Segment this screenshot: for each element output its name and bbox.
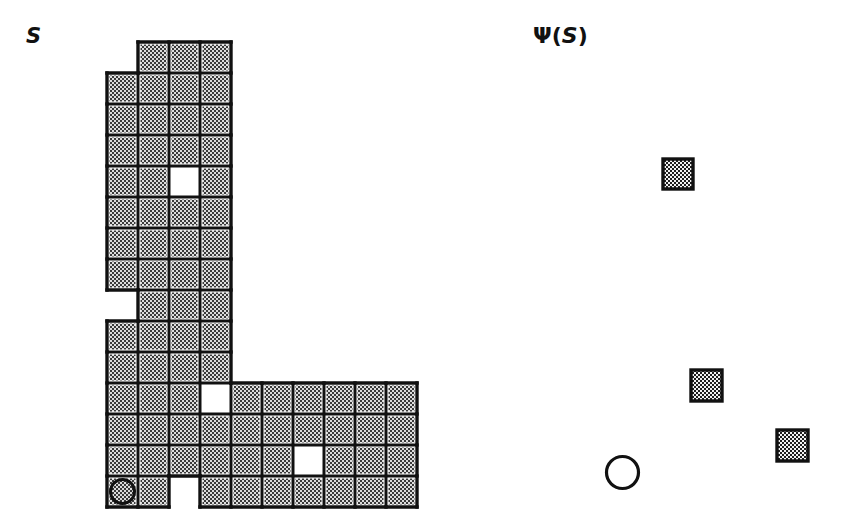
cell-fill xyxy=(265,386,291,412)
cell-fill xyxy=(358,448,384,474)
cell-fill xyxy=(141,448,167,474)
cell-fill xyxy=(203,448,229,474)
cell-fill xyxy=(172,107,198,133)
cell-fill xyxy=(327,448,353,474)
psi-square-marker xyxy=(691,370,722,401)
cell-fill xyxy=(358,386,384,412)
cell-hole xyxy=(296,448,322,474)
cell-fill xyxy=(172,293,198,319)
cell-fill xyxy=(110,231,136,257)
cell-fill xyxy=(389,386,415,412)
cell-fill xyxy=(172,231,198,257)
psi-argument: S xyxy=(562,23,578,48)
cell-fill xyxy=(203,107,229,133)
psi-glyph: Ψ xyxy=(533,23,552,48)
cell-fill xyxy=(141,386,167,412)
cell-fill xyxy=(203,417,229,443)
cell-fill xyxy=(358,417,384,443)
cell-fill xyxy=(110,200,136,226)
cell-fill xyxy=(203,45,229,71)
cell-fill xyxy=(358,479,384,505)
psi-circle-marker xyxy=(607,457,639,489)
cell-fill xyxy=(141,324,167,350)
cell-fill xyxy=(203,324,229,350)
cell-fill xyxy=(234,417,260,443)
cell-fill xyxy=(296,386,322,412)
cell-fill xyxy=(172,200,198,226)
cell-fill xyxy=(110,107,136,133)
cell-fill xyxy=(141,417,167,443)
cell-fill xyxy=(203,479,229,505)
cell-fill xyxy=(141,76,167,102)
cell-fill xyxy=(141,262,167,288)
paren-open: ( xyxy=(552,23,562,48)
cell-fill xyxy=(172,138,198,164)
cell-fill xyxy=(172,386,198,412)
cell-fill xyxy=(172,324,198,350)
cell-hole xyxy=(172,169,198,195)
cell-fill xyxy=(203,231,229,257)
cell-fill xyxy=(110,386,136,412)
cell-fill xyxy=(265,448,291,474)
cell-fill xyxy=(141,355,167,381)
figure-canvas: S Ψ(S) xyxy=(0,0,847,511)
cell-fill xyxy=(110,324,136,350)
psi-square-marker xyxy=(663,159,693,189)
cell-fill xyxy=(141,200,167,226)
cell-fill xyxy=(110,417,136,443)
cell-fill xyxy=(141,479,167,505)
polyomino-s-group xyxy=(107,42,417,507)
cell-hole xyxy=(203,386,229,412)
psi-square-marker xyxy=(777,430,808,461)
cell-fill xyxy=(389,479,415,505)
cell-fill xyxy=(203,355,229,381)
cell-fill xyxy=(296,417,322,443)
cell-fill xyxy=(110,76,136,102)
cell-fill xyxy=(110,138,136,164)
cell-fill xyxy=(110,169,136,195)
cell-fill xyxy=(327,386,353,412)
cell-fill xyxy=(172,76,198,102)
cell-fill xyxy=(141,138,167,164)
cell-fill xyxy=(110,262,136,288)
cell-fill xyxy=(265,417,291,443)
cell-fill xyxy=(141,107,167,133)
panel-label-psi-of-s: Ψ(S) xyxy=(533,25,588,47)
cell-fill xyxy=(172,45,198,71)
diagram-svg xyxy=(0,0,847,511)
cell-fill xyxy=(389,448,415,474)
cell-fill xyxy=(234,386,260,412)
cell-fill xyxy=(327,417,353,443)
cell-fill xyxy=(203,200,229,226)
cell-fill xyxy=(172,448,198,474)
cell-fill xyxy=(327,479,353,505)
cell-fill xyxy=(141,293,167,319)
cell-fill xyxy=(141,45,167,71)
cell-fill xyxy=(203,76,229,102)
cell-fill xyxy=(172,355,198,381)
panel-label-s: S xyxy=(26,26,41,47)
cell-fill xyxy=(234,448,260,474)
cell-fill xyxy=(110,355,136,381)
cell-fill xyxy=(265,479,291,505)
cell-fill xyxy=(141,231,167,257)
cell-fill xyxy=(172,417,198,443)
cell-fill xyxy=(172,262,198,288)
cell-fill xyxy=(110,448,136,474)
cell-fill xyxy=(203,138,229,164)
cell-fill xyxy=(389,417,415,443)
paren-close: ) xyxy=(578,23,588,48)
cell-fill xyxy=(141,169,167,195)
cell-fill xyxy=(234,479,260,505)
cell-fill xyxy=(203,169,229,195)
psi-markers-group xyxy=(607,159,809,489)
cell-fill xyxy=(203,262,229,288)
cell-fill xyxy=(296,479,322,505)
cell-fill xyxy=(203,293,229,319)
